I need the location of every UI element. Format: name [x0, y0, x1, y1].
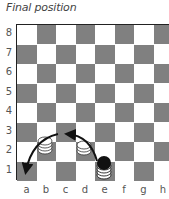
move-arrows-overlay: [0, 0, 169, 199]
black-piece-stack-e1: [97, 156, 111, 179]
